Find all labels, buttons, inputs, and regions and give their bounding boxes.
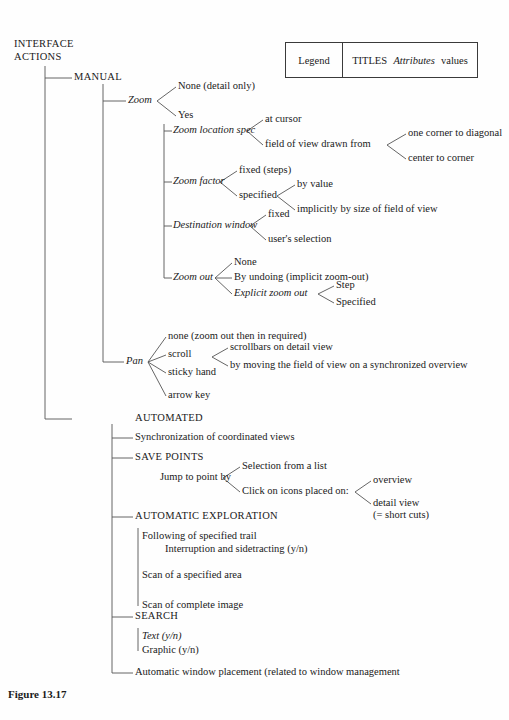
node-fixed-steps: fixed (steps): [239, 164, 291, 175]
node-pan-arrow-key: arrow key: [168, 389, 210, 400]
node-save-points: SAVE POINTS: [135, 451, 204, 462]
node-detail-view: detail view: [373, 497, 419, 508]
node-automatic-exploration: AUTOMATIC EXPLORATION: [135, 510, 278, 521]
node-dest-fixed: fixed: [268, 208, 290, 219]
node-zoom-factor: Zoom factor: [173, 175, 225, 186]
legend-sample-attributes: Attributes: [393, 55, 434, 66]
node-zoom-out: Zoom out: [173, 271, 213, 282]
figure-caption: Figure 13.17: [8, 688, 66, 700]
node-specified: specified: [239, 189, 277, 200]
legend-sample-values: values: [441, 55, 468, 66]
node-by-value: by value: [297, 178, 333, 189]
node-one-corner-to-diagonal: one corner to diagonal: [408, 127, 502, 138]
root-label-line2: ACTIONS: [14, 51, 62, 62]
node-interruption-sidetracting: Interruption and sidetracting (y/n): [165, 543, 308, 554]
node-center-to-corner: center to corner: [408, 152, 474, 163]
node-jump-to-point-by: Jump to point by: [160, 471, 231, 482]
legend-title-cell: Legend: [286, 43, 343, 77]
node-zoom-yes: Yes: [178, 109, 193, 120]
node-sync-coordinated-views: Synchronization of coordinated views: [135, 431, 295, 442]
node-pan-by-moving: by moving the field of view on a synchro…: [230, 359, 468, 370]
node-selection-from-list: Selection from a list: [242, 460, 327, 471]
node-scan-complete-image: Scan of complete image: [142, 599, 243, 610]
node-search-text: Text (y/n): [142, 630, 182, 641]
node-implicitly-by-size: implicitly by size of field of view: [297, 203, 438, 214]
node-at-cursor: at cursor: [265, 113, 301, 124]
node-pan: Pan: [126, 355, 143, 366]
node-zoomout-none: None: [234, 256, 257, 267]
node-click-on-icons: Click on icons placed on:: [242, 485, 349, 496]
node-zoomout-step: Step: [336, 279, 355, 290]
node-search: SEARCH: [135, 610, 178, 621]
legend-samples-cell: TITLES Attributes values: [343, 43, 477, 77]
node-auto-window-placement: Automatic window placement (related to w…: [135, 666, 400, 677]
node-search-graphic: Graphic (y/n): [142, 644, 199, 655]
node-pan-scroll: scroll: [168, 348, 191, 359]
node-zoom-none: None (detail only): [178, 80, 255, 91]
node-short-cuts: (= short cuts): [373, 509, 429, 520]
root-label-line1: INTERFACE: [14, 38, 74, 49]
node-zoom: Zoom: [128, 94, 152, 105]
node-pan-none: none (zoom out then in required): [168, 330, 307, 341]
node-zoomout-specified: Specified: [336, 296, 376, 307]
node-automated: AUTOMATED: [135, 412, 203, 423]
legend-box: Legend TITLES Attributes values: [285, 42, 478, 78]
node-dest-user-selection: user's selection: [268, 233, 331, 244]
legend-sample-titles: TITLES: [352, 55, 387, 66]
node-following-trail: Following of specified trail: [142, 530, 257, 541]
node-pan-scrollbars: scrollbars on detail view: [230, 341, 333, 352]
node-destination-window: Destination window: [173, 219, 257, 230]
node-manual: MANUAL: [74, 71, 122, 82]
figure-canvas: INTERFACE ACTIONS MANUAL Zoom None (deta…: [0, 0, 509, 720]
node-pan-sticky-hand: sticky hand: [168, 366, 216, 377]
node-zoomout-explicit: Explicit zoom out: [234, 287, 308, 298]
node-overview: overview: [373, 474, 412, 485]
node-zoom-location-spec: Zoom location spec: [173, 124, 255, 135]
node-scan-specified-area: Scan of a specified area: [142, 569, 242, 580]
node-fov-drawn-from: field of view drawn from: [265, 138, 371, 149]
